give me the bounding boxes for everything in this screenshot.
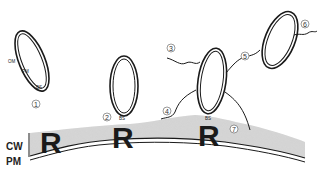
bs-label-2: BS <box>119 116 125 121</box>
svg-text:1: 1 <box>34 101 38 108</box>
om-label: OM <box>8 59 16 64</box>
cell-wall <box>30 115 305 158</box>
svg-text:2: 2 <box>105 114 109 121</box>
svg-text:5: 5 <box>243 53 247 60</box>
svg-text:4: 4 <box>165 108 169 115</box>
receptor-3: R <box>198 119 220 152</box>
pm-inner-label: PM <box>22 69 29 74</box>
stage-6-marker: 6 <box>301 20 309 28</box>
bacterium-2: BS <box>110 56 138 121</box>
bacterium-3: BS <box>194 46 231 121</box>
receptor-1: R <box>40 126 62 159</box>
svg-text:6: 6 <box>303 21 307 28</box>
stage-2-marker: 2 <box>103 113 111 121</box>
bacterial-attachment-diagram: CW PM R R R OM PM BS BS BS 1 2 <box>0 0 325 175</box>
receptor-2: R <box>112 121 134 154</box>
cw-label: CW <box>6 141 23 152</box>
stage-1-marker: 1 <box>32 100 40 108</box>
stage-5-marker: 5 <box>241 52 249 60</box>
stage-4-marker: 4 <box>163 107 171 115</box>
fibril-3 <box>167 58 200 64</box>
bs-label-3: BS <box>205 116 211 121</box>
stage-7-marker: 7 <box>230 125 238 133</box>
bs-label: BS <box>36 85 42 90</box>
svg-text:7: 7 <box>232 126 236 133</box>
stage-3-marker: 3 <box>167 44 175 52</box>
svg-text:3: 3 <box>169 45 173 52</box>
bacterium-1: OM PM BS <box>8 26 56 95</box>
pm-label: PM <box>6 156 21 167</box>
layer-labels: CW PM <box>6 133 29 167</box>
bacterium-4 <box>255 7 305 74</box>
